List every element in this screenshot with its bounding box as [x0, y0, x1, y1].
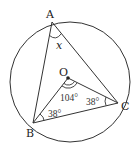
geometry-diagram: A O B C x 104° 38° 38° — [0, 0, 140, 149]
angle-arc-A — [50, 34, 62, 38]
angle-label-38-B: 38° — [48, 109, 62, 119]
angle-label-104: 104° — [60, 93, 78, 103]
angle-label-38-C: 38° — [86, 97, 100, 107]
segment-AB — [33, 22, 52, 123]
label-A: A — [45, 8, 55, 21]
label-O: O — [59, 66, 68, 79]
angle-arc-B — [40, 114, 44, 121]
segment-AC — [52, 22, 118, 103]
label-B: B — [26, 127, 34, 140]
label-C: C — [121, 100, 129, 113]
angle-label-x: x — [56, 39, 63, 52]
circumcircle — [10, 22, 130, 142]
angle-arc-C — [105, 97, 106, 106]
angle-arc-O-inner — [64, 82, 75, 86]
